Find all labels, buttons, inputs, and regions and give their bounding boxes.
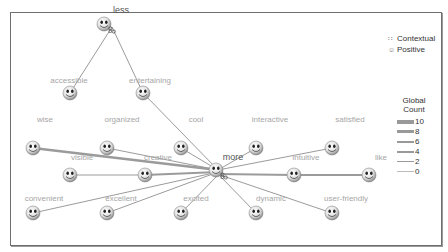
node-accessible[interactable] [63,86,77,100]
label-creative: creative [144,153,172,162]
label-less: less [113,5,129,15]
label-convenient: convenient [25,194,64,203]
label-wise: wise [37,115,53,124]
label-entertaining: entertaining [129,76,171,85]
label-organized: organized [104,115,139,124]
node-intuitive[interactable] [287,168,301,182]
node-wise[interactable] [26,141,40,155]
node-cool[interactable] [174,141,188,155]
node-visible[interactable] [63,168,77,182]
count-legend-8: 8 [397,127,419,136]
label-user-friendly: user-friendly [324,194,368,203]
positive-icon: ☺ [388,44,397,55]
node-interactive[interactable] [249,141,263,155]
label-excellent: excellent [105,194,137,203]
count-legend-10: 10 [397,117,424,126]
label-like: like [375,153,387,162]
node-user-friendly[interactable] [325,206,339,220]
label-excited: excited [183,194,208,203]
count-legend-2: 2 [397,157,419,166]
node-like[interactable] [362,168,376,182]
global-count-title: Global Count [388,96,440,114]
label-accessible: accessible [50,76,87,85]
legend-item-positive: ☺Positive [388,44,435,55]
label-more: more [223,152,244,162]
node-dynamic[interactable] [249,206,263,220]
label-dynamic: dynamic [256,194,286,203]
node-excited[interactable] [174,206,188,220]
node-organized[interactable] [100,141,114,155]
count-legend-6: 6 [397,137,419,146]
label-satisfied: satisfied [335,115,364,124]
node-excellent[interactable] [100,206,114,220]
count-legend-0: 0 [397,167,419,176]
label-cool: cool [189,115,204,124]
node-creative[interactable] [138,168,152,182]
node-satisfied[interactable] [325,141,339,155]
node-entertaining[interactable] [136,86,150,100]
count-legend-4: 4 [397,147,419,156]
contextual-icon: ∷ [388,33,397,44]
node-convenient[interactable] [26,206,40,220]
label-intuitive: intuitive [292,153,319,162]
label-visible: visible [71,153,93,162]
label-interactive: interactive [252,115,288,124]
network-graph [0,0,448,252]
type-legend: ∷Contextual ☺Positive [388,33,435,55]
legend-item-contextual: ∷Contextual [388,33,435,44]
